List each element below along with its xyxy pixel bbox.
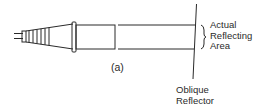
- reflecting-area-line-3: Area: [210, 41, 252, 52]
- fiber-probe-diagram: [0, 0, 266, 111]
- ferrule-taper: [22, 24, 73, 49]
- beam-path: [118, 25, 195, 49]
- figure-caption: (a): [111, 62, 124, 73]
- reflector-line-2: Reflector: [176, 96, 214, 107]
- probe-tube: [76, 25, 115, 49]
- reflector-label: Oblique Reflector: [176, 85, 214, 106]
- flange: [72, 22, 76, 52]
- reflector-line-1: Oblique: [176, 85, 214, 96]
- brace-icon: [201, 25, 206, 49]
- reflecting-area-label: Actual Reflecting Area: [210, 20, 252, 52]
- oblique-reflector: [193, 4, 197, 79]
- reflecting-area-line-1: Actual: [210, 20, 252, 31]
